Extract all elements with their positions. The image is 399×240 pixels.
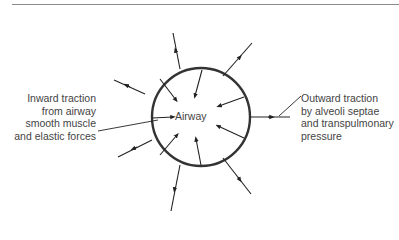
inward-line-1: Inward traction xyxy=(14,92,96,105)
airway-label: Airway xyxy=(175,110,207,122)
inward-traction-label: Inward traction from airway smooth muscl… xyxy=(14,92,96,142)
inward-line-2: from airway xyxy=(14,105,96,118)
outward-line-2: by alveoli septae xyxy=(301,105,394,118)
inward-line-4: and elastic forces xyxy=(14,130,96,143)
outward-arrows xyxy=(114,33,290,211)
inward-line-3: smooth muscle xyxy=(14,117,96,130)
outward-line-4: pressure xyxy=(301,130,394,143)
outward-traction-label: Outward traction by alveoli septae and t… xyxy=(301,92,394,142)
outward-line-3: and transpulmonary xyxy=(301,117,394,130)
outward-line-1: Outward traction xyxy=(301,92,394,105)
